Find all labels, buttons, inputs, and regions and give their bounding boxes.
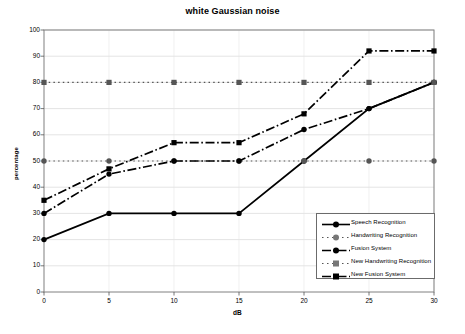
data-point [41,237,46,242]
y-tick-label: 70 [10,104,40,111]
data-point [106,80,111,85]
data-point [41,198,46,203]
legend-swatch-new-handwriting-recognition [321,255,351,266]
data-point [236,158,241,163]
y-tick-label: 10 [10,261,40,268]
data-point [301,158,306,163]
data-point [236,140,241,145]
legend-item-new-fusion-system: New Fusion System [317,267,436,280]
y-tick-label: 0 [10,288,40,295]
data-point [301,127,306,132]
legend-item-speech-recognition: Speech Recognition [317,215,436,228]
data-point [431,48,436,53]
data-point [431,158,436,163]
legend-label: Speech Recognition [351,219,406,225]
y-tick-label: 80 [10,78,40,85]
chart-legend: Speech Recognition Handwriting Recogniti… [316,213,435,279]
data-point [41,80,46,85]
data-point [431,80,436,85]
data-point [366,158,371,163]
legend-swatch-handwriting-recognition [321,229,351,240]
x-tick-label: 20 [289,297,319,304]
data-point [366,106,371,111]
data-point [301,111,306,116]
data-point [106,171,111,176]
data-point [301,80,306,85]
legend-label: Fusion System [351,245,391,251]
data-point [171,211,176,216]
x-tick-label: 0 [29,297,59,304]
chart-container: white Gaussian noise percentage dB 01020… [0,0,465,334]
y-tick-label: 60 [10,130,40,137]
x-tick-label: 10 [159,297,189,304]
data-point [236,80,241,85]
legend-swatch-new-fusion-system [321,268,351,279]
legend-swatch-fusion-system [321,242,351,253]
legend-item-handwriting-recognition: Handwriting Recognition [317,228,436,241]
legend-label: New Fusion System [351,271,405,277]
data-point [171,140,176,145]
y-tick-label: 50 [10,157,40,164]
data-point [171,80,176,85]
x-tick-label: 5 [94,297,124,304]
data-point [41,211,46,216]
x-tick-label: 15 [224,297,254,304]
legend-item-fusion-system: Fusion System [317,241,436,254]
x-tick-label: 30 [419,297,449,304]
legend-swatch-speech-recognition [321,216,351,227]
y-tick-label: 100 [10,26,40,33]
plot-area [0,0,465,334]
legend-label: New Handwriting Recognition [351,258,431,264]
legend-label: Handwriting Recognition [351,232,417,238]
data-point [236,211,241,216]
data-point [366,80,371,85]
y-tick-label: 20 [10,235,40,242]
y-tick-label: 90 [10,52,40,59]
data-point [41,158,46,163]
y-tick-label: 30 [10,209,40,216]
data-point [366,48,371,53]
data-point [106,158,111,163]
x-tick-label: 25 [354,297,384,304]
data-point [171,158,176,163]
legend-item-new-handwriting-recognition: New Handwriting Recognition [317,254,436,267]
data-point [106,211,111,216]
data-point [106,166,111,171]
y-tick-label: 40 [10,183,40,190]
